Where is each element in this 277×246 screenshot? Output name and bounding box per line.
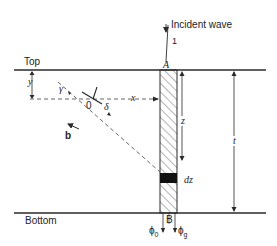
- origin-tick: [93, 87, 97, 99]
- x-label: x: [131, 93, 135, 103]
- gamma-label: γ: [59, 84, 63, 94]
- top-label: Top: [24, 57, 40, 67]
- burgers-vector-label: b: [65, 131, 71, 141]
- dislocation-segment: [82, 92, 102, 104]
- ray-number-label: 1: [172, 37, 177, 46]
- t-label: t: [232, 136, 237, 146]
- diagonal-dashed-line: [58, 82, 160, 172]
- y-label: y: [28, 77, 32, 87]
- bottom-label: Bottom: [25, 216, 57, 226]
- phi0-label: ϕ0: [149, 226, 159, 238]
- point-b-label: B: [166, 215, 173, 225]
- origin-label: 0: [86, 101, 92, 111]
- x-arrow-head: [153, 97, 159, 102]
- z-label: z: [180, 116, 186, 126]
- delta-label: δ: [104, 102, 109, 112]
- column-approximation-diagram: [0, 0, 277, 246]
- point-a-label: A: [163, 60, 169, 70]
- hatched-column: [160, 70, 177, 213]
- dz-slab: [160, 173, 177, 183]
- dz-label: dz: [184, 175, 193, 185]
- burgers-vector-arrow: [68, 124, 79, 129]
- incident-wave-label: Incident wave: [171, 20, 232, 30]
- phig-label: ϕg: [178, 226, 188, 238]
